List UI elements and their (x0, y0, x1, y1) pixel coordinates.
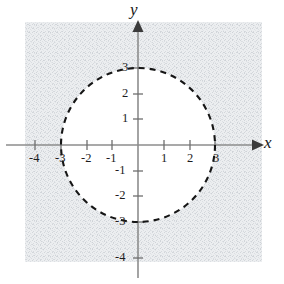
x-tick-label--3: -3 (55, 152, 65, 165)
y-tick-label--4: -4 (115, 251, 125, 264)
x-tick-label-1: 1 (161, 152, 167, 165)
y-tick-label--2: -2 (115, 189, 125, 202)
coordinate-plane-figure: y x -4 -3 -2 -1 1 2 3 3 2 1 -1 -2 -3 -4 (0, 0, 284, 284)
x-tick-label-2: 2 (187, 152, 193, 165)
y-axis-label: y (130, 1, 138, 18)
y-tick-label-1: 1 (122, 112, 128, 125)
x-tick-label--2: -2 (81, 152, 91, 165)
graph-canvas (0, 0, 284, 284)
y-tick-label--1: -1 (115, 164, 125, 177)
y-tick-label-3: 3 (122, 61, 128, 74)
x-tick-label-3: 3 (213, 152, 219, 165)
x-axis-label: x (264, 134, 272, 151)
y-tick-label-2: 2 (122, 87, 128, 100)
x-tick-label--4: -4 (29, 152, 39, 165)
y-tick-label--3: -3 (115, 215, 125, 228)
